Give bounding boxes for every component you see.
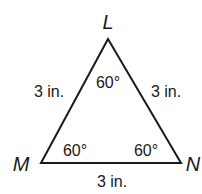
side-label-lm: 3 in.	[34, 83, 64, 100]
angle-label-n: 60°	[134, 142, 158, 159]
vertex-label-l: L	[102, 11, 113, 33]
side-label-ln: 3 in.	[151, 83, 181, 100]
angle-label-l: 60°	[96, 74, 120, 91]
triangle-svg: L M N 3 in. 3 in. 3 in. 60° 60° 60°	[0, 0, 202, 194]
side-label-mn: 3 in.	[97, 173, 127, 190]
vertex-label-n: N	[186, 153, 201, 175]
triangle-diagram: L M N 3 in. 3 in. 3 in. 60° 60° 60°	[0, 0, 202, 194]
angle-label-m: 60°	[63, 142, 87, 159]
vertex-label-m: M	[13, 153, 30, 175]
